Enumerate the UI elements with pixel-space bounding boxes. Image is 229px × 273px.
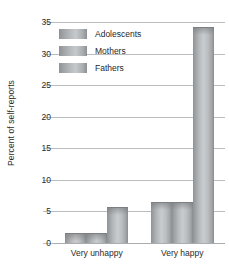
chart-legend: AdolescentsMothersFathers: [59, 29, 141, 73]
x-axis-tick-label: Very unhappy: [71, 248, 123, 258]
legend-swatch-icon: [59, 29, 87, 39]
y-axis-tick-label: 5: [46, 206, 51, 216]
y-axis-tick-labels: 05101520253035: [22, 22, 54, 243]
legend-item-label: Adolescents: [95, 29, 141, 39]
bar-fathers-very-happy: [193, 27, 214, 243]
x-axis-tick-label: Very happy: [161, 248, 204, 258]
y-axis-tick-label: 0: [46, 238, 51, 248]
legend-item: Mothers: [59, 46, 141, 56]
y-axis-title-text: Percent of self-reports: [6, 80, 16, 166]
bar-adolescents-very-happy: [151, 202, 172, 243]
y-axis-tick-label: 20: [42, 112, 51, 122]
gridline: [54, 22, 225, 23]
y-axis-tick-label: 10: [42, 175, 51, 185]
legend-item-label: Mothers: [95, 46, 126, 56]
y-axis-tick-label: 25: [42, 80, 51, 90]
legend-swatch-icon: [59, 46, 87, 56]
bar-mothers-very-happy: [172, 202, 193, 243]
legend-item: Fathers: [59, 63, 141, 73]
gridline: [54, 243, 225, 244]
bar-adolescents-very-unhappy: [65, 233, 86, 243]
bar-mothers-very-unhappy: [86, 233, 107, 243]
legend-swatch-icon: [59, 63, 87, 73]
y-axis-tick-label: 30: [42, 49, 51, 59]
x-axis-tick-labels: Very unhappyVery happy: [54, 248, 225, 266]
legend-item-label: Fathers: [95, 63, 124, 73]
y-axis-tick-label: 35: [42, 17, 51, 27]
bar-fathers-very-unhappy: [107, 207, 128, 243]
y-axis-tick-label: 15: [42, 143, 51, 153]
chart-figure: Percent of self-reports 05101520253035 V…: [0, 0, 229, 273]
y-axis-title: Percent of self-reports: [0, 0, 22, 245]
legend-item: Adolescents: [59, 29, 141, 39]
